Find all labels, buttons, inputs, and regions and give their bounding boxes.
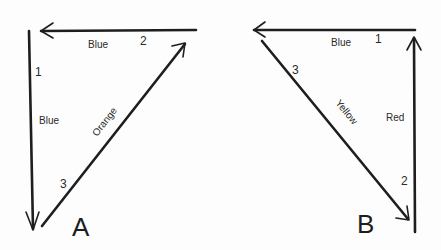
diagram-b: Blue 1 Red 2 3 Yellow B: [254, 22, 421, 239]
diagram-a-vector-2-order: 2: [140, 34, 147, 48]
diagram-b-vector-2-arrow: [407, 37, 421, 232]
diagram-b-vector-3-arrow: [262, 41, 409, 220]
diagram-a-vector-2-color-label: Blue: [88, 39, 108, 50]
diagram-b-vector-3-color-label: Yellow: [333, 97, 360, 127]
diagram-b-letter: B: [357, 209, 374, 239]
diagram-a-vector-2-arrow: [41, 23, 196, 38]
vector-diagram-figure: 1 Blue Blue 2 3 Orange A: [0, 0, 441, 250]
diagram-a-letter: A: [72, 212, 90, 242]
diagram-svg: 1 Blue Blue 2 3 Orange A: [0, 0, 441, 250]
diagram-b-vector-2-order: 2: [401, 174, 408, 188]
diagram-a-vector-1-order: 1: [35, 65, 42, 79]
diagram-a-vector-3-arrow: [42, 43, 185, 226]
diagram-b-vector-1-arrow: [254, 22, 415, 37]
diagram-b-vector-3-order: 3: [292, 63, 299, 77]
diagram-a-vector-3-order: 3: [60, 177, 67, 191]
diagram-b-vector-1-order: 1: [375, 32, 382, 46]
diagram-b-vector-2-color-label: Red: [386, 112, 404, 123]
diagram-a-vector-1-arrow: [26, 31, 39, 230]
diagram-b-vector-1-color-label: Blue: [331, 37, 351, 48]
diagram-a: 1 Blue Blue 2 3 Orange A: [26, 23, 196, 242]
diagram-a-vector-1-color-label: Blue: [39, 115, 59, 126]
